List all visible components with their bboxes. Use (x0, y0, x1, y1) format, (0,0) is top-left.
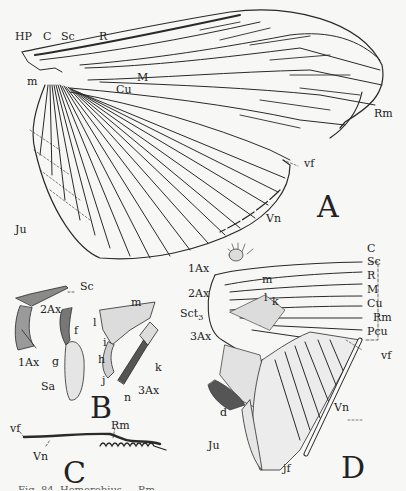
label-b-1ax: 1Ax (18, 357, 39, 368)
label-b-h: h (98, 354, 105, 365)
label-d-m-vein: M (367, 284, 378, 295)
label-d-m: m (262, 274, 272, 285)
label-d-l: l (264, 292, 268, 303)
panel-letter-c: C (63, 458, 86, 488)
label-d-c: C (367, 243, 375, 254)
figure-caption: Fig. 84. Hemerobius ... Rm ... (18, 484, 168, 491)
label-a-hp: HP (15, 31, 32, 42)
label-d-r: R (367, 270, 375, 281)
figure-drawing (0, 0, 406, 491)
label-b-k: k (155, 362, 162, 373)
label-d-3ax: 3Ax (190, 331, 211, 342)
label-a-r: R (99, 31, 107, 42)
label-a-ju: Ju (15, 224, 27, 235)
label-d-sct3: Sct3 (180, 308, 203, 323)
label-d-sc: Sc (367, 256, 381, 267)
label-d-jf: jf (283, 463, 290, 474)
label-a-vn: Vn (266, 213, 281, 224)
label-d-sct3-subscript: 3 (198, 313, 203, 322)
label-b-j: j (102, 375, 105, 386)
label-a-cu: Cu (116, 84, 132, 95)
label-d-vn: Vn (334, 402, 349, 413)
label-b-2ax: 2Ax (40, 304, 61, 315)
label-b-sc: Sc (80, 281, 94, 292)
label-d-ju: Ju (208, 440, 220, 451)
label-a-rm: Rm (374, 108, 393, 119)
label-d-rm: Rm (373, 312, 392, 323)
label-c-vn: Vn (33, 451, 48, 462)
label-b-sa: Sa (41, 381, 55, 392)
panel-c-cross-section (20, 428, 166, 450)
label-b-g: g (52, 356, 59, 367)
label-b-3ax: 3Ax (138, 385, 159, 396)
label-d-k: k (272, 296, 279, 307)
label-b-n: n (124, 392, 131, 403)
label-d-sct3-text: Sct (180, 307, 198, 320)
panel-d-wing-base (208, 243, 378, 470)
label-d-vf: vf (381, 350, 391, 361)
label-b-m: m (131, 297, 141, 308)
label-a-m-vein: M (137, 72, 148, 83)
label-a-sc: Sc (61, 31, 75, 42)
label-b-l: l (93, 317, 97, 328)
label-c-rm: Rm (111, 420, 130, 431)
label-d-2ax: 2Ax (188, 288, 209, 299)
label-b-i: i (103, 337, 107, 348)
label-d-pcu: Pcu (367, 326, 388, 337)
label-a-c: C (43, 31, 51, 42)
label-a-vf: vf (304, 158, 314, 169)
label-b-f: f (74, 325, 78, 336)
label-d-1ax: 1Ax (188, 263, 209, 274)
panel-letter-a: A (317, 192, 339, 222)
wing-morphology-figure: HP C Sc R M Cu m Rm vf Vn Ju A Sc 1Ax 2A… (0, 0, 406, 491)
panel-letter-b: B (90, 393, 112, 423)
panel-letter-d: D (341, 453, 365, 483)
label-d-d: d (220, 407, 227, 418)
label-d-cu: Cu (367, 298, 383, 309)
label-c-vf: vf (10, 423, 20, 434)
label-a-m: m (27, 76, 37, 87)
